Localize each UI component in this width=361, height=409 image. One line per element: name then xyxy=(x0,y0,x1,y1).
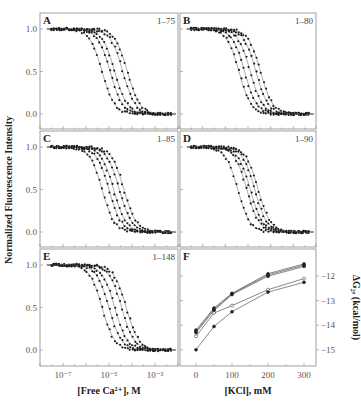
panel-annotation: 1–75 xyxy=(157,16,176,26)
x-tick-label: 10⁻³ xyxy=(147,370,164,380)
left-y-axis-label: Normalized Fluorescence Intensity xyxy=(3,116,14,264)
y-tick-label: 1.0 xyxy=(26,142,38,152)
x-axis-label: [Free Ca²⁺], M xyxy=(77,385,141,396)
panel-letter: D xyxy=(183,132,191,144)
y-tick-label: 0.0 xyxy=(26,109,38,119)
x-tick-label: 10⁻⁵ xyxy=(101,370,118,380)
figure-canvas: A1–751.00.50.0B1–80C1–851.00.50.0D1–90E1… xyxy=(0,0,361,409)
panel-A: A1–751.00.50.0 xyxy=(26,13,178,129)
y-tick-label: 1.0 xyxy=(26,24,38,34)
y-tick-label: −13 xyxy=(321,296,336,306)
y-tick-label: −15 xyxy=(321,345,336,355)
panel-letter: C xyxy=(43,132,51,144)
y-tick-label: −12 xyxy=(321,271,335,281)
panel-F: F−12−13−14−150100200300[KCl], mMΔG₂, (kc… xyxy=(180,249,361,396)
panel-annotation: 1–90 xyxy=(295,134,314,144)
panel-letter: F xyxy=(183,250,190,262)
panel-annotation: 1–85 xyxy=(157,134,176,144)
panel-letter: E xyxy=(43,250,50,262)
y-tick-label: −14 xyxy=(321,320,336,330)
x-tick-label: 300 xyxy=(297,370,311,380)
x-axis-label: [KCl], mM xyxy=(224,385,272,396)
y-tick-label: 0.0 xyxy=(26,345,38,355)
y-tick-label: 1.0 xyxy=(26,260,38,270)
x-tick-label: 10⁻⁷ xyxy=(55,370,72,380)
panel-B: B1–80 xyxy=(180,13,316,129)
panel-letter: B xyxy=(183,14,191,26)
x-tick-label: 200 xyxy=(261,370,275,380)
panel-letter: A xyxy=(43,14,51,26)
panel-E: E1–1481.00.50.010⁻⁷10⁻⁵10⁻³[Free Ca²⁺], … xyxy=(26,249,178,396)
panel-annotation: 1–80 xyxy=(295,16,314,26)
panel-D: D1–90 xyxy=(180,131,316,247)
x-tick-label: 100 xyxy=(225,370,239,380)
y-tick-label: 0.0 xyxy=(26,227,38,237)
right-y-axis-label: ΔG₂, (kcal/mol) xyxy=(350,275,361,340)
y-tick-label: 0.5 xyxy=(26,185,38,195)
panel-C: C1–851.00.50.0 xyxy=(26,131,178,247)
y-tick-label: 0.5 xyxy=(26,67,38,77)
y-tick-label: 0.5 xyxy=(26,303,38,313)
panel-annotation: 1–148 xyxy=(153,252,176,262)
x-tick-label: 0 xyxy=(194,370,199,380)
